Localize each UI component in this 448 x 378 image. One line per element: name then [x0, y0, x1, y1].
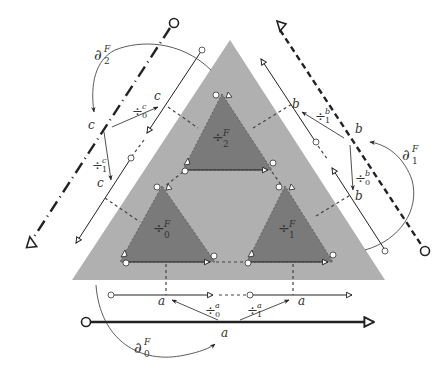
- edge-b-label: b: [355, 122, 363, 136]
- map-c0-label: ÷ c 0: [132, 102, 147, 120]
- svg-text:÷: ÷: [153, 220, 165, 236]
- svg-text:2: 2: [104, 56, 110, 66]
- edge-c1-start-vertex: [199, 47, 205, 53]
- boundary-map-0-label: ∂ F 0: [134, 337, 151, 359]
- edge-a0-label: a: [158, 294, 165, 308]
- svg-text:1: 1: [257, 310, 262, 319]
- edge-b0-start-vertex: [382, 248, 388, 254]
- edge-b0-label: b: [355, 189, 363, 203]
- edge-c0-label: c: [97, 176, 104, 190]
- svg-text:0: 0: [215, 310, 220, 319]
- edge-b1-start-vertex: [313, 139, 319, 145]
- map-b0-label: ÷ b 0: [355, 169, 370, 187]
- svg-text:F: F: [103, 44, 111, 54]
- svg-text:1: 1: [102, 165, 107, 174]
- svg-text:F: F: [222, 128, 230, 138]
- svg-text:÷: ÷: [278, 220, 290, 236]
- subdivision-diagram: ÷ F 2 ÷ F 0 ÷ F 1 a a a ÷ a 0 ÷ a 1 ∂ F: [0, 0, 448, 378]
- map-a1-label: ÷ a 1: [247, 301, 262, 319]
- svg-text:b: b: [365, 169, 370, 178]
- edge-b-gap: [318, 146, 328, 160]
- svg-text:0: 0: [164, 230, 170, 240]
- svg-text:F: F: [143, 337, 151, 347]
- edge-c0-start-vertex: [128, 155, 134, 161]
- svg-text:c: c: [142, 102, 147, 111]
- svg-text:0: 0: [365, 178, 370, 187]
- edge-a1-start-vertex: [247, 292, 253, 298]
- edge-c1-label: c: [154, 89, 161, 103]
- edge-c-gap: [132, 140, 144, 156]
- map-c1-label: ÷ c 1: [92, 156, 107, 174]
- svg-text:1: 1: [412, 156, 418, 166]
- svg-text:0: 0: [144, 349, 150, 359]
- svg-text:c: c: [102, 156, 107, 165]
- boundary-map-2-label: ∂ F 2: [94, 44, 111, 66]
- svg-text:∂: ∂: [402, 146, 410, 164]
- svg-text:b: b: [325, 107, 330, 116]
- svg-text:a: a: [257, 301, 262, 310]
- svg-text:∂: ∂: [94, 46, 102, 64]
- svg-text:1: 1: [325, 116, 330, 125]
- edge-c-label: c: [88, 118, 95, 132]
- edge-c-start-vertex: [170, 19, 179, 28]
- edge-a0-start-vertex: [108, 292, 114, 298]
- map-b1-label: ÷ b 1: [315, 107, 330, 125]
- svg-text:a: a: [215, 301, 220, 310]
- svg-text:F: F: [163, 219, 171, 229]
- edge-c-end-arrow: [22, 237, 36, 252]
- edge-a-start-vertex: [82, 318, 91, 327]
- svg-text:F: F: [288, 219, 296, 229]
- edge-b1-label: b: [292, 97, 300, 111]
- edge-a1-label: a: [298, 294, 305, 308]
- svg-text:0: 0: [142, 111, 147, 120]
- svg-text:÷: ÷: [212, 129, 224, 145]
- svg-text:F: F: [411, 144, 419, 154]
- edge-b-start-vertex: [421, 247, 430, 256]
- svg-text:2: 2: [223, 139, 229, 149]
- svg-text:1: 1: [289, 230, 295, 240]
- map-a0-label: ÷ a 0: [205, 301, 220, 319]
- map-b0-arrow: [350, 145, 353, 190]
- edge-a-label: a: [221, 326, 228, 340]
- edge-b-end-arrow: [277, 21, 286, 31]
- boundary-map-1-label: ∂ F 1: [402, 144, 419, 166]
- svg-text:∂: ∂: [134, 339, 142, 357]
